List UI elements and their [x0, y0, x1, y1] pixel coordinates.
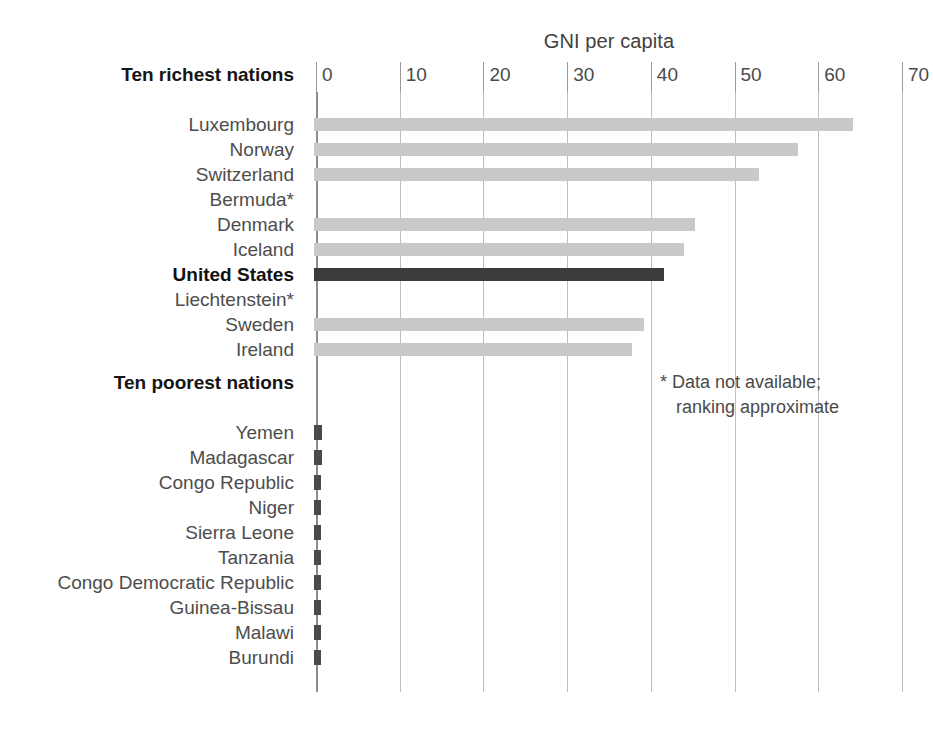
- table-row: Malawi: [0, 620, 933, 645]
- bar-congo-democratic-republic: [314, 575, 321, 590]
- bar-label-madagascar: Madagascar: [0, 445, 294, 470]
- chart-title: GNI per capita: [316, 30, 902, 53]
- table-row: Guinea-Bissau: [0, 595, 933, 620]
- bar-sweden: [314, 318, 644, 331]
- bar-iceland: [314, 243, 684, 256]
- chart-page: GNI per capita 010203040506070 Ten riche…: [0, 0, 933, 732]
- tick-line: [316, 62, 317, 92]
- section-heading-poorest: Ten poorest nations: [0, 372, 294, 394]
- tick-line: [567, 62, 568, 92]
- section-heading-richest: Ten richest nations: [0, 64, 294, 86]
- bar-label-switzerland: Switzerland: [0, 162, 294, 187]
- bar-luxembourg: [314, 118, 853, 131]
- table-row: Niger: [0, 495, 933, 520]
- table-row: Congo Democratic Republic: [0, 570, 933, 595]
- bar-label-luxembourg: Luxembourg: [0, 112, 294, 137]
- bar-label-guinea-bissau: Guinea-Bissau: [0, 595, 294, 620]
- table-row: Ireland: [0, 337, 933, 362]
- table-row: Tanzania: [0, 545, 933, 570]
- table-row: Yemen: [0, 420, 933, 445]
- tick-line: [735, 62, 736, 92]
- tick-label: 60: [824, 64, 845, 86]
- bar-label-united-states: United States: [0, 262, 294, 287]
- table-row: Luxembourg: [0, 112, 933, 137]
- bar-label-denmark: Denmark: [0, 212, 294, 237]
- bar-denmark: [314, 218, 695, 231]
- tick-line: [651, 62, 652, 92]
- bar-label-tanzania: Tanzania: [0, 545, 294, 570]
- bar-sierra-leone: [314, 525, 321, 540]
- bar-united-states: [314, 268, 664, 281]
- bar-label-norway: Norway: [0, 137, 294, 162]
- bar-niger: [314, 500, 321, 515]
- bar-label-congo-republic: Congo Republic: [0, 470, 294, 495]
- table-row: Liechtenstein*: [0, 287, 933, 312]
- table-row: United States: [0, 262, 933, 287]
- bar-guinea-bissau: [314, 600, 321, 615]
- bar-label-liechtenstein: Liechtenstein*: [0, 287, 294, 312]
- tick-line: [483, 62, 484, 92]
- footnote-line-2: ranking approximate: [660, 395, 839, 420]
- bar-yemen: [314, 425, 322, 440]
- bar-label-malawi: Malawi: [0, 620, 294, 645]
- table-row: Congo Republic: [0, 470, 933, 495]
- tick-label: 70: [908, 64, 929, 86]
- bar-congo-republic: [314, 475, 321, 490]
- tick-label: 10: [406, 64, 427, 86]
- table-row: Sierra Leone: [0, 520, 933, 545]
- footnote-annotation: * Data not available; ranking approximat…: [660, 370, 839, 420]
- bar-label-sierra-leone: Sierra Leone: [0, 520, 294, 545]
- bar-label-ireland: Ireland: [0, 337, 294, 362]
- table-row: Norway: [0, 137, 933, 162]
- footnote-line-1: * Data not available;: [660, 372, 821, 392]
- table-row: Bermuda*: [0, 187, 933, 212]
- tick-label: 50: [741, 64, 762, 86]
- bar-ireland: [314, 343, 632, 356]
- tick-label: 20: [489, 64, 510, 86]
- tick-label: 0: [322, 64, 333, 86]
- tick-line: [400, 62, 401, 92]
- table-row: Denmark: [0, 212, 933, 237]
- table-row: Burundi: [0, 645, 933, 670]
- bar-burundi: [314, 650, 321, 665]
- table-row: Sweden: [0, 312, 933, 337]
- bar-norway: [314, 143, 798, 156]
- tick-label: 40: [657, 64, 678, 86]
- bar-tanzania: [314, 550, 321, 565]
- bar-label-congo-democratic-republic: Congo Democratic Republic: [0, 570, 294, 595]
- bar-madagascar: [314, 450, 322, 465]
- bar-switzerland: [314, 168, 759, 181]
- bar-label-niger: Niger: [0, 495, 294, 520]
- bar-label-yemen: Yemen: [0, 420, 294, 445]
- table-row: Iceland: [0, 237, 933, 262]
- bar-malawi: [314, 625, 321, 640]
- tick-line: [902, 62, 903, 92]
- bar-label-sweden: Sweden: [0, 312, 294, 337]
- table-row: Madagascar: [0, 445, 933, 470]
- bar-label-burundi: Burundi: [0, 645, 294, 670]
- bar-label-iceland: Iceland: [0, 237, 294, 262]
- tick-line: [818, 62, 819, 92]
- bar-label-bermuda: Bermuda*: [0, 187, 294, 212]
- table-row: Switzerland: [0, 162, 933, 187]
- tick-label: 30: [573, 64, 594, 86]
